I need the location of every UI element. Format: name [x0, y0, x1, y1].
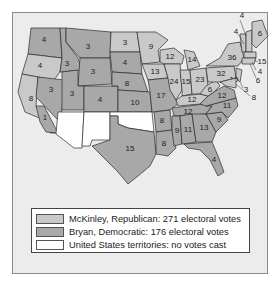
state-label: 13 [151, 67, 160, 76]
state-label: 6 [208, 85, 213, 94]
state-label: 24 [170, 77, 179, 86]
swatch-republican [36, 214, 64, 224]
territory-arizona [56, 112, 84, 148]
state-label: 4 [42, 35, 47, 44]
state-label: 4 [212, 155, 217, 164]
legend-item-territory: United States territories: no votes cast [36, 238, 245, 251]
state-label: 3 [123, 38, 128, 47]
state-label: 8 [29, 94, 34, 103]
state-label: 3 [65, 59, 70, 68]
state-label: 11 [223, 101, 232, 110]
state-label: 6 [258, 29, 263, 38]
state-new-hampshire [246, 30, 252, 52]
state-label: 3 [70, 89, 75, 98]
legend: McKinley, Republican: 271 electoral vote… [31, 208, 250, 253]
swatch-territory [36, 240, 64, 250]
state-label: 1 [43, 113, 48, 122]
legend-item-democratic: Bryan, Democratic: 176 electoral votes [36, 225, 245, 238]
state-label: 4 [258, 67, 263, 76]
legend-label: McKinley, Republican: 271 electoral vote… [69, 214, 241, 224]
state-label: 4 [234, 27, 239, 36]
state-label: 15 [126, 144, 135, 153]
state-label: 10 [131, 98, 140, 107]
state-label: 3 [91, 67, 96, 76]
state-label: 17 [157, 91, 166, 100]
state-label: 12 [166, 52, 175, 61]
state-label: 36 [228, 53, 237, 62]
legend-label: Bryan, Democratic: 176 electoral votes [69, 227, 229, 237]
state-label: 15 [258, 57, 267, 66]
state-label: 12 [188, 95, 197, 104]
state-label: 23 [196, 75, 205, 84]
state-label: 3 [86, 42, 91, 51]
state-label: 6 [256, 76, 261, 85]
state-label: 4 [38, 61, 43, 70]
legend-item-republican: McKinley, Republican: 271 electoral vote… [36, 212, 245, 225]
territory-new-mexico [82, 112, 110, 146]
state-label: 14 [188, 55, 197, 64]
state-label: 9 [217, 115, 222, 124]
state-label: 8 [125, 79, 130, 88]
state-label: 4 [123, 58, 128, 67]
state-label: 4 [240, 11, 245, 20]
state-label: 9 [175, 126, 180, 135]
state-label: 3 [49, 85, 54, 94]
legend-label: United States territories: no votes cast [69, 240, 226, 250]
state-label: 9 [149, 42, 154, 51]
swatch-democratic [36, 227, 64, 237]
state-label: 13 [200, 123, 209, 132]
state-massachusetts [244, 52, 256, 58]
state-new-york [206, 42, 244, 66]
state-label: 15 [182, 77, 191, 86]
state-label: 8 [160, 116, 165, 125]
state-label: 8 [252, 93, 257, 102]
state-label: 12 [218, 91, 227, 100]
state-label: 4 [98, 95, 103, 104]
state-label: 8 [162, 139, 167, 148]
state-label: 11 [184, 125, 193, 134]
state-label: 32 [217, 69, 226, 78]
state-florida [184, 142, 224, 176]
state-connecticut-ri [242, 58, 256, 64]
